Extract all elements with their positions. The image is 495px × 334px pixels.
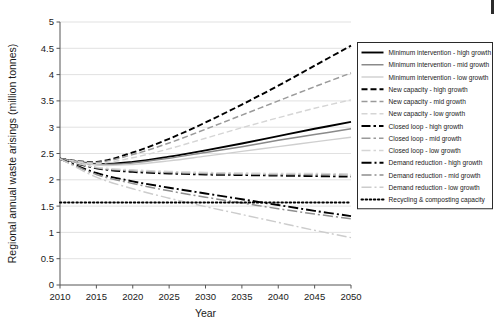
chart-figure: 00.511.522.533.544.55 201020152020202520… xyxy=(0,0,495,334)
y-tick-label: 2 xyxy=(49,174,54,185)
y-axis-title: Regional annual waste arisings (million … xyxy=(6,44,18,263)
y-tick-label: 0 xyxy=(49,279,54,290)
legend-label: Demand reduction - mid growth xyxy=(389,172,481,180)
scan-artifact xyxy=(491,0,494,14)
legend-label: Minimum intervention - low growth xyxy=(389,74,489,82)
chart-legend[interactable]: Minimum intervention - high growthMinimu… xyxy=(358,43,493,209)
series-line xyxy=(60,159,351,174)
x-tick-label: 2040 xyxy=(268,291,289,302)
series-line xyxy=(60,159,351,238)
x-tick-label: 2050 xyxy=(340,291,361,302)
series-line xyxy=(60,137,351,165)
series-line xyxy=(60,100,351,164)
x-tick-label: 2045 xyxy=(304,291,325,302)
legend-label: Minimum intervention - high growth xyxy=(389,49,492,57)
x-tick-label: 2015 xyxy=(86,291,107,302)
x-tick-label: 2010 xyxy=(49,291,70,302)
y-tick-label: 1 xyxy=(49,227,54,238)
y-tick-label: 4.5 xyxy=(41,43,54,54)
y-tick-label: 3 xyxy=(49,122,54,133)
y-tick-label: 2.5 xyxy=(41,148,54,159)
x-axis-title: Year xyxy=(195,307,217,319)
line-chart: 00.511.522.533.544.55 201020152020202520… xyxy=(0,0,495,334)
legend-label: Minimum intervention - mid growth xyxy=(389,61,490,69)
y-tick-label: 1.5 xyxy=(41,201,54,212)
legend-label: New capacity - low growth xyxy=(389,110,466,118)
legend-label: Closed loop - low growth xyxy=(389,147,462,155)
legend-label: Recycling & composting capacity xyxy=(389,196,486,204)
legend-label: Closed loop - mid growth xyxy=(389,135,462,143)
legend-label: Demand reduction - high growth xyxy=(389,159,483,167)
series-line xyxy=(60,46,351,162)
x-tick-label: 2020 xyxy=(122,291,143,302)
legend-label: New capacity - high growth xyxy=(389,86,468,94)
series-line xyxy=(60,129,351,165)
y-tick-label: 3.5 xyxy=(41,95,54,106)
legend-label: Demand reduction - low growth xyxy=(389,184,481,192)
y-tick-label: 5 xyxy=(49,16,54,27)
x-axis-ticks: 201020152020202520302035204020452050 xyxy=(49,285,361,302)
y-axis-ticks: 00.511.522.533.544.55 xyxy=(41,16,60,290)
x-tick-label: 2030 xyxy=(195,291,216,302)
legend-label: New capacity - mid growth xyxy=(389,98,467,106)
x-tick-label: 2025 xyxy=(159,291,180,302)
grid-lines xyxy=(60,22,351,259)
y-tick-label: 4 xyxy=(49,69,54,80)
y-tick-label: 0.5 xyxy=(41,253,54,264)
x-tick-label: 2035 xyxy=(231,291,252,302)
legend-label: Closed loop - high growth xyxy=(389,123,464,131)
series-line xyxy=(60,159,351,216)
series-line xyxy=(60,73,351,163)
